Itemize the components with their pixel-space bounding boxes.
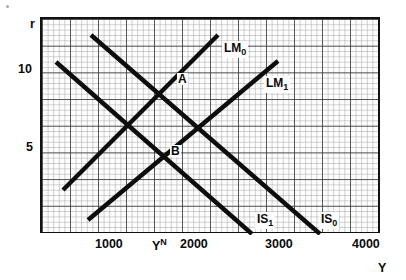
plot-area: LM0 LM1 IS1 IS0 A B (40, 17, 380, 233)
curve-is0 (91, 35, 320, 234)
is1-base: IS (257, 212, 268, 226)
curve-lm0 (63, 35, 218, 190)
x-tick-label-yn: YN (152, 238, 167, 253)
curves-layer (42, 19, 382, 235)
lm0-base: LM (224, 41, 241, 55)
curve-label-lm0: LM0 (222, 41, 248, 58)
x-tick-label-4000: 4000 (352, 238, 380, 251)
is0-base: IS (321, 212, 332, 226)
is1-sub: 1 (268, 218, 273, 228)
lm0-sub: 0 (241, 47, 246, 57)
point-label-a: A (177, 73, 188, 85)
curve-label-is0: IS0 (319, 212, 339, 229)
figure-canvas: r 10 5 1000 YN 2000 3000 4000 Y (0, 0, 406, 280)
x-tick-label-1000: 1000 (95, 238, 123, 251)
y-tick-label-10: 10 (18, 63, 32, 76)
curve-label-lm1: LM1 (264, 76, 290, 93)
is0-sub: 0 (332, 218, 337, 228)
x-tick-label-3000: 3000 (265, 238, 293, 251)
y-axis-label: r (30, 18, 35, 31)
lm1-sub: 1 (283, 82, 288, 92)
x-tick-label-2000: 2000 (180, 238, 208, 251)
scan-artifact-dot (6, 5, 9, 8)
curve-label-is1: IS1 (255, 212, 275, 229)
yn-superscript: N (160, 237, 167, 247)
point-label-b: B (170, 145, 181, 157)
x-axis-label: Y (378, 262, 386, 275)
lm1-base: LM (266, 76, 283, 90)
y-tick-label-5: 5 (26, 141, 33, 154)
